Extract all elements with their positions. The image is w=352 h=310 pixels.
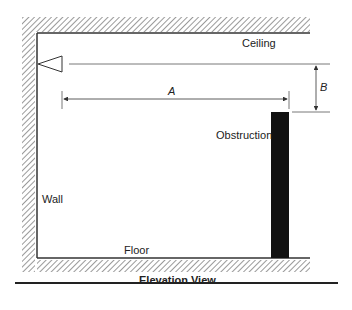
obstruction-label: Obstruction bbox=[216, 130, 272, 141]
diagram-caption: Elevation View bbox=[139, 275, 216, 286]
obstruction bbox=[271, 112, 289, 258]
floor-label: Floor bbox=[124, 245, 149, 256]
floor-hatch bbox=[37, 260, 310, 272]
wall-hatch bbox=[22, 32, 35, 272]
dim-a-label: A bbox=[168, 86, 175, 97]
dim-b-label: B bbox=[320, 82, 327, 93]
ceiling-label: Ceiling bbox=[242, 38, 276, 49]
elevation-diagram bbox=[0, 0, 352, 310]
ceiling-hatch bbox=[22, 17, 310, 32]
wall-label: Wall bbox=[42, 194, 63, 205]
device-icon bbox=[38, 56, 62, 72]
